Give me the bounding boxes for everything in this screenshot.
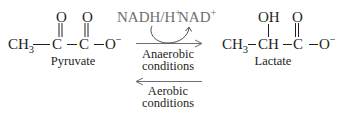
o-text: O (105, 36, 116, 52)
nad-text: NAD (178, 9, 211, 25)
pyruvate-carbonyl-o-1: O (56, 10, 67, 25)
pyruvate-c2: C (79, 37, 89, 52)
lactate-ch3: CH3 (222, 37, 248, 52)
lactate-ch: CH (258, 37, 279, 52)
ch-text: CH (222, 36, 243, 52)
superscript: − (116, 34, 122, 45)
pyruvate-c1: C (52, 37, 62, 52)
forward-condition-line2: conditions (142, 60, 194, 73)
lactate-o-minus: O− (319, 37, 336, 52)
subscript: 3 (29, 44, 34, 55)
pyruvate-ch3: CH3 (8, 37, 34, 52)
forward-arrow (136, 40, 202, 47)
pyruvate-label: Pyruvate (51, 55, 95, 68)
pyruvate-bonds (33, 23, 104, 45)
o-text: O (319, 36, 330, 52)
superscript: + (211, 7, 217, 18)
superscript: − (330, 34, 336, 45)
pyruvate-carbonyl-o-2: O (82, 10, 93, 25)
subscript: 3 (243, 44, 248, 55)
lactate-hydroxyl: OH (258, 10, 280, 25)
cofactor-curved-arrow (151, 26, 192, 43)
pyruvate-o-minus: O− (105, 37, 122, 52)
ch-text: CH (8, 36, 29, 52)
nadh-text: NADH/H (117, 9, 175, 25)
lactate-c: C (293, 37, 303, 52)
lactate-label: Lactate (255, 55, 292, 68)
lactate-carbonyl-o: O (292, 10, 303, 25)
pyruvate-lactate-reaction: O O CH3 C C O− Pyruvate NADH/H+ NAD+ Ana… (0, 0, 348, 114)
cofactor-nadh: NADH/H+ (117, 10, 181, 25)
reverse-condition-line2: conditions (142, 97, 194, 110)
cofactor-nad: NAD+ (178, 10, 216, 25)
